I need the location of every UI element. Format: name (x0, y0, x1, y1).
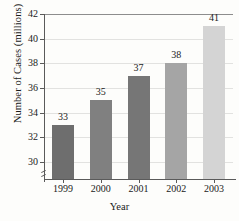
x-tick-label: 1999 (43, 183, 83, 194)
y-tick-mark (40, 88, 45, 89)
bar: 38 (165, 63, 187, 179)
plot-area: 3335373841 (44, 14, 233, 179)
x-tick-label: 2001 (119, 183, 159, 194)
x-tick-label: 2002 (156, 183, 196, 194)
bar: 35 (90, 100, 112, 179)
bar: 41 (203, 26, 225, 179)
x-axis-title: Year (0, 201, 239, 212)
bar-chart: Number of Cases (millions) 3335373841 30… (0, 0, 239, 221)
x-axis-line (44, 179, 236, 180)
y-tick-mark (40, 63, 45, 64)
bar: 33 (52, 125, 74, 179)
bar-value-label: 37 (134, 63, 144, 73)
y-tick-mark (40, 113, 45, 114)
y-tick-label: 34 (18, 108, 38, 118)
bar-value-label: 41 (209, 13, 219, 23)
x-tick-label: 2000 (81, 183, 121, 194)
y-tick-label: 38 (18, 58, 38, 68)
y-tick-label: 36 (18, 83, 38, 93)
y-tick-label: 30 (18, 157, 38, 167)
gridline (44, 14, 233, 15)
x-tick-label: 2003 (194, 183, 234, 194)
axis-break-icon (41, 170, 46, 177)
bar-value-label: 33 (58, 112, 68, 122)
y-tick-label: 42 (18, 9, 38, 19)
bar: 37 (128, 76, 150, 179)
bar-value-label: 38 (171, 50, 181, 60)
y-axis-title: Number of Cases (millions) (12, 0, 23, 139)
y-tick-label: 40 (18, 34, 38, 44)
y-tick-mark (40, 14, 45, 15)
y-tick-mark (40, 162, 45, 163)
y-tick-mark (40, 137, 45, 138)
bar-value-label: 35 (96, 87, 106, 97)
y-tick-label: 32 (18, 132, 38, 142)
y-tick-mark (40, 39, 45, 40)
